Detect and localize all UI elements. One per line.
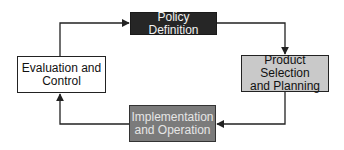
arrow-policy-to-product (217, 23, 285, 54)
node-label-line2: and Operation (131, 124, 213, 137)
node-label-line1: Evaluation and (22, 62, 101, 75)
node-label-line2: Control (22, 75, 101, 88)
node-label-line2: and Planning (242, 80, 328, 93)
node-evaluation-and-control: Evaluation and Control (17, 56, 106, 93)
node-label-line1: Implementation (131, 111, 213, 124)
node-product-selection-and-planning: Product Selection and Planning (241, 55, 329, 92)
arrow-product-to-implementation (217, 92, 285, 124)
arrow-evaluation-to-policy (60, 23, 129, 56)
node-policy-definition: Policy Definition (130, 12, 217, 35)
node-label: Policy Definition (131, 11, 216, 37)
node-label-line1: Product Selection (242, 54, 328, 80)
node-implementation-and-operation: Implementation and Operation (129, 105, 216, 142)
arrow-implementation-to-evaluation (60, 94, 129, 124)
